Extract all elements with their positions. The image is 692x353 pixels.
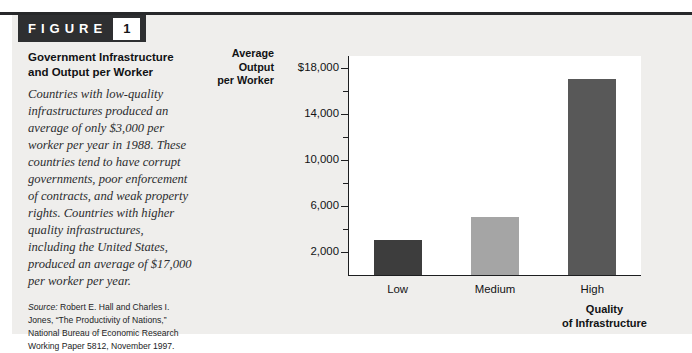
bar-medium [471,217,519,275]
y-axis-title-line-2: Output [200,61,274,75]
figure-header: FIGURE 1 [18,15,146,42]
x-axis-tick-label: Low [387,284,408,295]
figure-title: Government Infrastructure and Output per… [28,50,194,79]
y-axis-minor-tick [343,183,349,184]
plot-area: Quality of Infrastructure $18,00014,0001… [348,56,641,276]
y-axis-major-tick [341,114,349,115]
y-axis-title-line-1: Average [200,47,274,61]
y-axis-tick-label: 14,000 [304,108,339,119]
x-axis-tick-label: Medium [475,284,516,295]
figure-number-badge: 1 [113,18,140,40]
x-axis-title-line-2: of Infrastructure [562,316,647,330]
y-axis-major-tick [341,206,349,207]
caption-column: Government Infrastructure and Output per… [28,50,194,353]
y-axis-minor-tick [343,137,349,138]
x-axis-title: Quality of Infrastructure [562,302,647,331]
y-axis-tick-label: 2,000 [310,246,339,257]
y-axis-minor-tick [343,91,349,92]
bar-low [374,240,422,275]
source-label: Source: [28,302,58,312]
y-axis-tick-label: 6,000 [310,200,339,211]
y-axis-title: Average Output per Worker [200,47,274,88]
figure-caption-text: Countries with low-quality infrastructur… [28,86,194,289]
y-axis-tick-label: $18,000 [298,62,339,73]
bar-chart: Average Output per Worker Quality of Inf… [200,44,678,329]
y-axis-major-tick [341,68,349,69]
y-axis-major-tick [341,160,349,161]
y-axis-tick-label: 10,000 [304,154,339,165]
x-axis-title-line-1: Quality [562,302,647,316]
y-axis-major-tick [341,252,349,253]
y-axis-minor-tick [343,229,349,230]
bar-high [568,79,616,275]
x-axis-tick-label: High [581,284,604,295]
figure-source-note: Source: Robert E. Hall and Charles I. Jo… [28,301,194,353]
y-axis-title-line-3: per Worker [200,74,274,88]
figure-label: FIGURE [28,22,109,35]
